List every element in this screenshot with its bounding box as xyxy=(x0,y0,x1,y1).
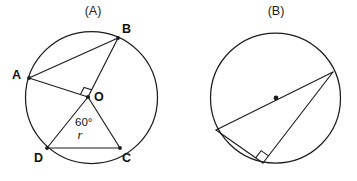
figure-a-point-label-o: O xyxy=(94,90,104,104)
figure-a-vertex-dot-d xyxy=(45,146,49,150)
figure-a-angle-label-60deg: 60° xyxy=(75,116,92,128)
figure-a-center-dot xyxy=(86,95,90,99)
figure-b-group: (B) xyxy=(211,4,341,163)
figure-a-point-label-c: C xyxy=(122,151,131,165)
figure-b-center-dot xyxy=(274,96,279,101)
figure-a-radius-length-label: r xyxy=(78,128,83,142)
figure-a-radius-oa xyxy=(29,78,88,97)
figure-b-triangle-leg-right xyxy=(263,72,333,163)
figure-a-point-label-d: D xyxy=(34,151,43,165)
figure-a-radius-oc xyxy=(88,97,120,148)
figure-b-caption: (B) xyxy=(268,4,285,18)
right-angle-marker-icon xyxy=(256,151,269,158)
figure-a-vertex-dot-b xyxy=(116,36,120,40)
figure-a-group: (A) O A B C D 60° r xyxy=(12,4,158,165)
figure-b-diameter xyxy=(216,72,333,130)
figure-a-caption: (A) xyxy=(85,4,102,18)
figure-a-point-label-a: A xyxy=(12,68,21,82)
figure-a-vertex-dot-c xyxy=(118,146,122,150)
figure-a-radius-ob xyxy=(88,38,118,97)
figure-a-point-label-b: B xyxy=(122,22,131,36)
geometry-figure-root: (A) O A B C D 60° r (B) xyxy=(0,0,357,181)
geometry-diagram-canvas: (A) O A B C D 60° r (B) xyxy=(0,0,357,181)
figure-a-vertex-dot-a xyxy=(27,76,31,80)
figure-a-chord-ab xyxy=(29,38,118,78)
figure-a-circle xyxy=(26,32,158,164)
